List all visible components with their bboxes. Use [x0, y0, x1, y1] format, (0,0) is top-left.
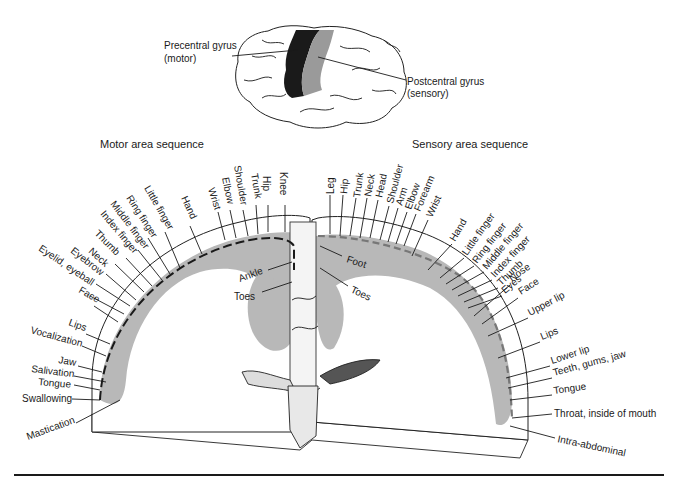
- motor-label: Face: [77, 284, 102, 305]
- sensory-label: Leg: [325, 177, 336, 194]
- precentral-sublabel: (motor): [164, 53, 196, 64]
- sensory-label: Hand: [447, 217, 468, 243]
- motor-heading: Motor area sequence: [100, 138, 204, 150]
- postcentral-sublabel: (sensory): [407, 88, 449, 99]
- motor-medial-label: Toes: [234, 291, 255, 302]
- sensory-label: Intra-abdominal: [557, 433, 627, 458]
- sensory-label: Lips: [539, 325, 560, 342]
- motor-label: Swallowing: [22, 393, 72, 404]
- precentral-label: Precentral gyrus: [164, 40, 237, 51]
- motor-label: Wrist: [206, 186, 224, 211]
- motor-label: Hand: [179, 194, 199, 220]
- motor-label: Lips: [67, 317, 88, 334]
- sensory-label: Hip: [338, 178, 350, 194]
- motor-label: Tongue: [38, 376, 72, 390]
- motor-label: Mastication: [25, 414, 76, 442]
- sensory-heading: Sensory area sequence: [412, 138, 528, 150]
- postcentral-label: Postcentral gyrus: [407, 76, 484, 87]
- motor-label: Knee: [278, 172, 289, 196]
- sensory-label: Upper lip: [526, 289, 567, 318]
- homunculus-diagram: Precentral gyrus (motor) Postcentral gyr…: [0, 0, 690, 491]
- brain-illustration: [232, 26, 406, 128]
- motor-label: Elbow: [220, 176, 237, 206]
- sensory-label: Tongue: [553, 380, 587, 396]
- sensory-label: Throat, inside of mouth: [554, 408, 656, 419]
